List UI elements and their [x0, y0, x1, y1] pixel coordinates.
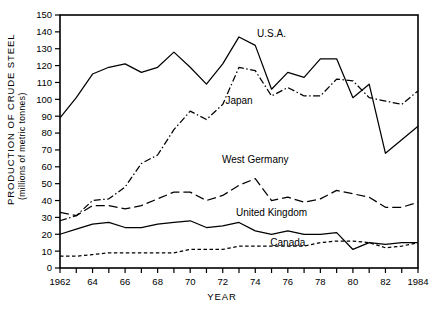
y-tick-label: 100: [36, 94, 52, 105]
x-tick-label: 66: [120, 276, 131, 287]
series-line-canada: [60, 241, 418, 256]
y-tick-label: 30: [41, 212, 52, 223]
series-line-japan: [60, 67, 418, 220]
y-tick-label: 110: [37, 77, 52, 88]
y-axis-title-line2: (millions of metric tonnes): [17, 92, 27, 200]
y-axis-title-line1: PRODUCTION OF CRUDE STEEL: [5, 34, 16, 205]
y-tick-label: 70: [41, 144, 52, 155]
x-tick-label: 70: [185, 276, 196, 287]
x-tick-label: 80: [348, 276, 359, 287]
y-tick-label: 50: [41, 178, 52, 189]
y-tick-label: 40: [41, 195, 52, 206]
series-inline-labels: U.S.A.JapanWest GermanyUnited KingdomCan…: [222, 28, 307, 248]
series-label-canada: Canada: [270, 237, 305, 248]
y-tick-label: 120: [36, 60, 52, 71]
y-tick-label: 20: [41, 229, 52, 240]
series-line-united-kingdom: [60, 221, 418, 250]
y-tick-label: 0: [47, 262, 52, 273]
y-tick-label: 90: [41, 111, 52, 122]
series-label-united-kingdom: United Kingdom: [236, 207, 307, 218]
x-tick-label: 78: [315, 276, 326, 287]
x-tick-label: 1984: [407, 276, 428, 287]
x-tick-label: 64: [87, 276, 98, 287]
y-tick-label: 10: [41, 246, 52, 257]
x-tick-label: 72: [217, 276, 228, 287]
x-tick-label: 82: [380, 276, 391, 287]
y-tick-label: 130: [36, 43, 52, 54]
y-axis-tick-labels: 0102030405060708090100110120130140150: [36, 9, 52, 273]
y-tick-label: 150: [36, 9, 52, 20]
x-tick-label: 1962: [49, 276, 70, 287]
crude-steel-production-chart: 0102030405060708090100110120130140150 19…: [0, 0, 440, 311]
x-tick-label: 68: [152, 276, 163, 287]
x-tick-label: 74: [250, 276, 261, 287]
plot-area-border: [60, 15, 418, 268]
series-label-japan: Japan: [225, 95, 252, 106]
x-axis-tick-labels: 1962646668707274767880821984: [49, 276, 428, 287]
data-series-lines: [60, 37, 418, 256]
x-tick-label: 76: [283, 276, 294, 287]
y-tick-label: 80: [41, 127, 52, 138]
chart-canvas: 0102030405060708090100110120130140150 19…: [0, 0, 440, 311]
series-label-u-s-a: U.S.A.: [257, 28, 286, 39]
x-axis-title: YEAR: [207, 291, 236, 302]
y-tick-label: 60: [41, 161, 52, 172]
series-label-west-germany: West Germany: [222, 154, 289, 165]
y-tick-label: 140: [36, 26, 52, 37]
